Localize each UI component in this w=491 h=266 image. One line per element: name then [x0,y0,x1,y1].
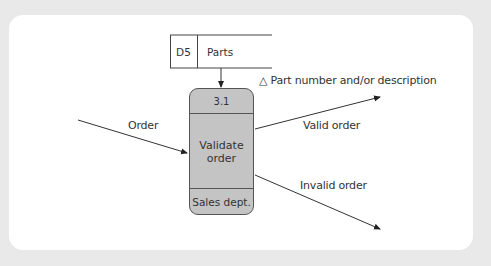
process-name: Validate order [190,114,253,190]
flow-label-valid-order: Valid order [303,119,360,132]
data-store-name: Parts [207,35,233,68]
flow-label-invalid-order: Invalid order [300,179,367,192]
process-owner: Sales dept. [190,188,253,214]
data-store-id: D5 [170,35,197,68]
process-box: 3.1 Validate order Sales dept. [189,88,254,215]
process-id: 3.1 [190,89,253,114]
flow-label-order: Order [128,119,158,132]
store-flow-label: △ Part number and/or description [259,74,437,87]
